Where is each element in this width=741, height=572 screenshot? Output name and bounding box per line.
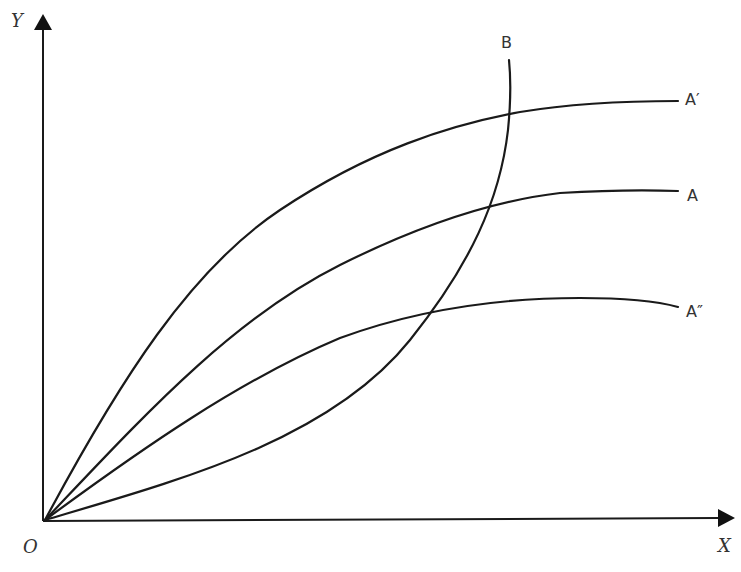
curve-label-a-prime: A′ (685, 92, 700, 108)
curve-label-a-double-prime: A″ (686, 304, 703, 320)
x-axis-label: X (718, 537, 731, 555)
curve-b (45, 60, 510, 520)
origin-label: O (23, 538, 38, 556)
curve-label-b: B (501, 35, 512, 51)
diagram-canvas (0, 0, 741, 572)
y-axis-arrow-icon (34, 14, 52, 30)
curve-a-double-prime (45, 298, 678, 520)
x-axis (43, 518, 718, 521)
x-axis-arrow-icon (718, 509, 735, 527)
curve-a-prime (45, 101, 678, 520)
curve-a (45, 190, 678, 520)
curve-label-a: A (687, 188, 698, 204)
y-axis-label: Y (11, 12, 23, 30)
